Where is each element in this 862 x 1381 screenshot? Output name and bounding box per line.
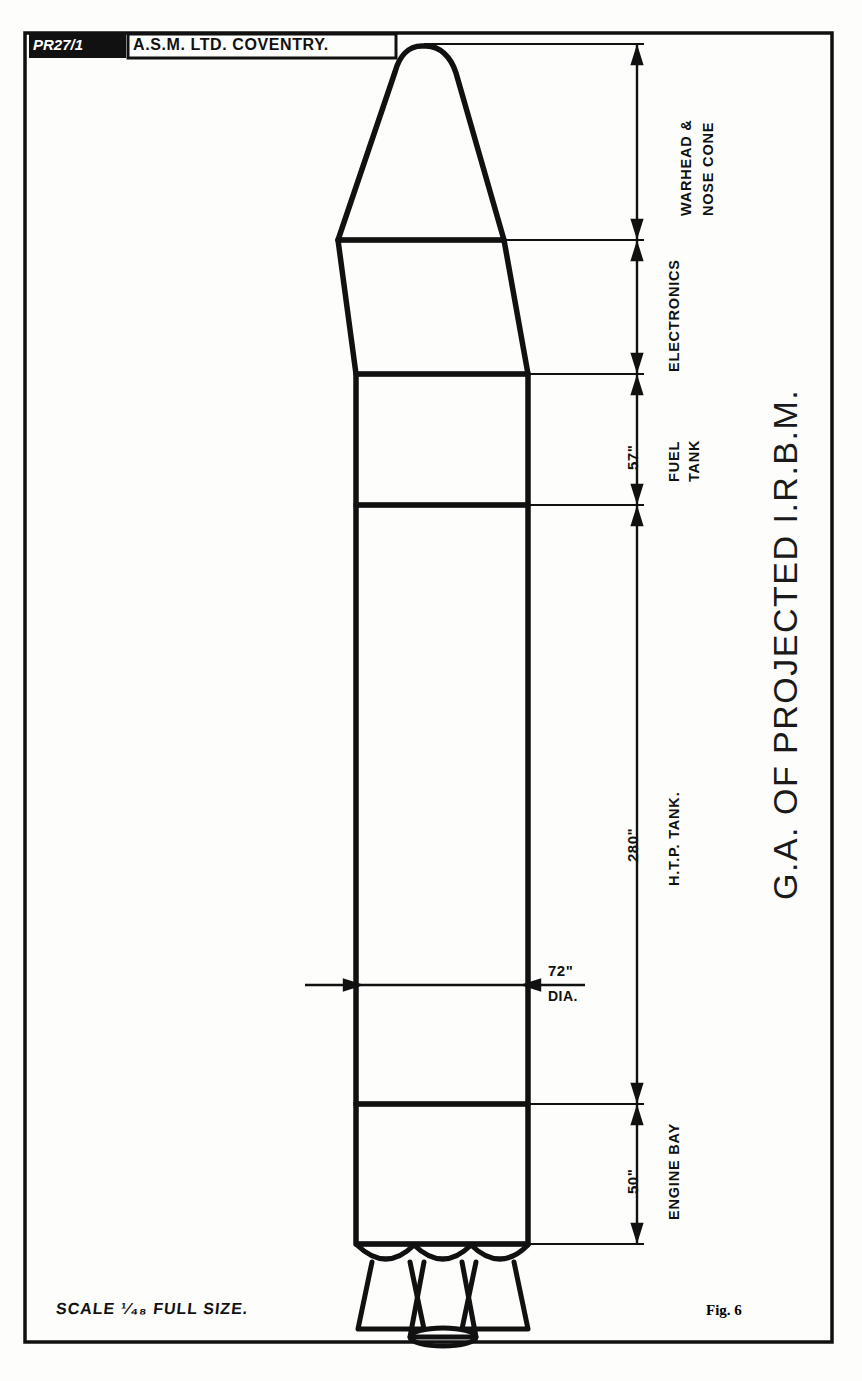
section-label-warhead-line2: NOSE CONE [700,122,716,216]
company-name: A.S.M. LTD. COVENTRY. [133,36,329,54]
section-label-electronics: ELECTRONICS [666,259,682,372]
scale-note: SCALE ¹⁄₄₈ FULL SIZE. [55,1300,249,1318]
section-label-fuel-line1: FUEL [666,441,682,482]
figure-number: Fig. 6 [706,1302,742,1319]
dimension-value-htp-tank: 280" [624,828,641,862]
sheet-background [0,0,862,1381]
dimension-value-fuel-tank: 57" [624,445,641,470]
technical-drawing [0,0,862,1381]
dimension-value-engine-bay: 50" [624,1169,641,1194]
section-label-warhead-line1: WARHEAD & [678,119,694,216]
diameter-unit-label: DIA. [548,988,578,1004]
main-title: G.A. OF PROJECTED I.R.B.M. [766,389,805,900]
section-label-fuel-line2: TANK [686,440,702,482]
section-label-engine-bay: ENGINE BAY [666,1123,682,1220]
diameter-value: 72" [548,962,573,979]
drawing-sheet: PR27/1 A.S.M. LTD. COVENTRY. WARHEAD & N… [0,0,862,1381]
section-label-htp-tank: H.T.P. TANK. [666,792,682,886]
drawing-number: PR27/1 [33,36,83,53]
